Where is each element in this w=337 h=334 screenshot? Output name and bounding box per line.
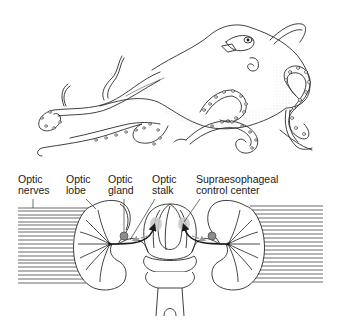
optic-gland-right bbox=[208, 232, 216, 240]
octopus-arm bbox=[38, 124, 169, 156]
octopus-illustration bbox=[38, 24, 313, 156]
optic-lobe-left bbox=[73, 200, 138, 290]
esophagus bbox=[164, 309, 176, 317]
label-optic-lobe: Optic lobe bbox=[66, 174, 91, 196]
central-brain bbox=[138, 204, 200, 316]
optic-gland-left bbox=[120, 232, 128, 240]
diagram-canvas bbox=[0, 0, 337, 334]
label-optic-gland: Optic gland bbox=[108, 174, 134, 196]
optic-lobe-right bbox=[200, 200, 265, 290]
supraesophageal-control-center-left bbox=[150, 217, 162, 231]
label-optic-stalk: Optic stalk bbox=[152, 174, 177, 196]
label-optic-nerves: Optic nerves bbox=[18, 174, 50, 196]
supraesophageal-control-center-right bbox=[178, 217, 190, 231]
label-supraesophageal-control-center: Supraesophageal control center bbox=[196, 174, 278, 196]
